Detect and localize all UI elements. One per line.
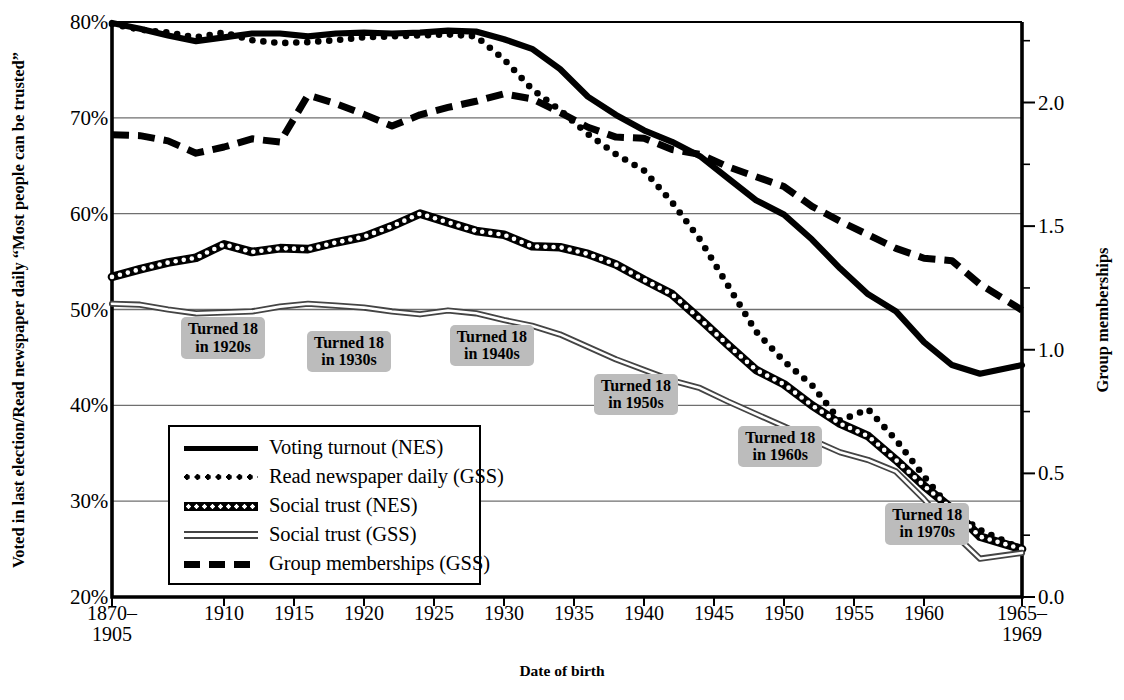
annotation-turned-18-in-1950s: Turned 18in 1950s	[594, 374, 678, 416]
series-dot-newspaper	[809, 383, 816, 390]
legend-item-read-newspaper-daily-gss[interactable]: Read newspaper daily (GSS)	[170, 462, 479, 491]
series-dot-social-trust-nes	[118, 272, 123, 277]
series-dot-social-trust-nes	[684, 305, 689, 310]
series-dot-social-trust-nes	[720, 338, 725, 343]
annotation-turned-18-in-1940s: Turned 18in 1940s	[450, 325, 534, 367]
series-dot-social-trust-nes	[833, 418, 838, 423]
series-dot-newspaper	[534, 90, 541, 97]
series-dot-newspaper	[902, 449, 909, 456]
series-dot-newspaper	[881, 424, 888, 431]
x-tick-1955: 1955	[834, 603, 874, 624]
series-dot-social-trust-nes	[433, 216, 438, 221]
series-dot-social-trust-nes	[559, 245, 564, 250]
series-dot-social-trust-nes	[665, 289, 670, 294]
series-dot-social-trust-nes	[765, 373, 770, 378]
series-dot-social-trust-nes	[813, 405, 818, 410]
series-dot-social-trust-nes	[259, 248, 264, 253]
series-dot-newspaper	[769, 345, 776, 352]
series-dot-newspaper	[228, 31, 235, 38]
legend-item-social-trust-gss[interactable]: Social trust (GSS)	[170, 520, 479, 549]
series-dot-social-trust-nes	[340, 239, 345, 244]
legend-item-group-memberships-gss[interactable]: Group memberships (GSS)	[170, 549, 479, 578]
series-dot-newspaper	[857, 409, 864, 416]
y-tick-left-70: 70%	[70, 105, 108, 130]
series-dot-social-trust-nes	[888, 453, 893, 458]
y-tick-left-40: 40%	[70, 393, 108, 418]
series-dot-newspaper	[801, 375, 808, 382]
x-tick-1950: 1950	[764, 603, 804, 624]
series-dot-social-trust-nes	[181, 258, 186, 263]
series-dot-social-trust-nes	[980, 535, 985, 540]
y-axis-right-title: Group memberships	[1088, 40, 1118, 600]
series-dot-social-trust-nes	[535, 244, 540, 249]
series-dot-newspaper	[736, 301, 743, 308]
series-dot-newspaper	[174, 31, 181, 38]
legend-item-social-trust-nes[interactable]: Social trust (NES)	[170, 491, 479, 520]
series-dot-newspaper	[622, 156, 629, 163]
series-dot-social-trust-nes	[141, 266, 146, 271]
series-dot-social-trust-nes	[316, 244, 321, 249]
legend-swatch-line	[184, 561, 258, 568]
series-dot-social-trust-nes	[591, 254, 596, 259]
plot-area	[0, 0, 1124, 700]
series-dot-social-trust-nes	[519, 240, 524, 245]
series-dot-newspaper	[392, 33, 399, 40]
series-dot-social-trust-nes	[758, 370, 763, 375]
series-dot-social-trust-nes	[678, 299, 683, 304]
series-dot-social-trust-nes	[480, 229, 485, 234]
series-dot-social-trust-nes	[650, 282, 655, 287]
series-dot-social-trust-nes	[826, 414, 831, 419]
series-dot-social-trust-nes	[739, 354, 744, 359]
series-dot-newspaper	[511, 67, 518, 74]
series-dot-social-trust-nes	[300, 247, 305, 252]
legend-swatch-double-thin-icon	[184, 528, 258, 542]
legend-label: Social trust (GSS)	[269, 523, 416, 546]
series-dot-newspaper	[196, 34, 203, 41]
series-dot-social-trust-nes	[488, 231, 493, 236]
series-dot-newspaper	[141, 27, 148, 34]
x-tick-1930: 1930	[484, 603, 524, 624]
series-dot-newspaper	[896, 440, 903, 447]
y-tick-left-60: 60%	[70, 201, 108, 226]
series-dot-social-trust-nes	[937, 496, 942, 501]
y-axis-left-title-line1: Voted in last election/Read newspaper da…	[9, 262, 28, 568]
series-dot-social-trust-nes	[512, 237, 517, 242]
series-dot-social-trust-nes	[456, 223, 461, 228]
series-dot-newspaper	[348, 35, 355, 42]
series-dot-social-trust-nes	[583, 251, 588, 256]
series-dot-social-trust-nes	[918, 481, 923, 486]
series-dot-newspaper	[655, 184, 662, 191]
series-dot-newspaper	[526, 83, 533, 90]
y-tick-right-0.5: 0.5	[1038, 461, 1064, 486]
series-dot-social-trust-nes	[441, 218, 446, 223]
series-dashed	[112, 94, 1022, 310]
legend-swatch-line	[184, 446, 258, 451]
series-dot-social-trust-nes	[551, 245, 556, 250]
series-dot-social-trust-nes	[732, 349, 737, 354]
series-dot-newspaper	[648, 176, 655, 183]
series-dot-social-trust-nes	[714, 332, 719, 337]
x-tick-1965–1969: 1965–1969	[997, 603, 1047, 644]
series-dot-newspaper	[631, 162, 638, 169]
y-tick-right-2.0: 2.0	[1038, 90, 1064, 115]
series-dot-social-trust-nes	[149, 264, 154, 269]
series-dot-newspaper	[641, 167, 648, 174]
series-dot-social-trust-nes	[973, 530, 978, 535]
series-dot-social-trust-nes	[567, 247, 572, 252]
series-dot-newspaper	[503, 59, 510, 66]
series-dot-social-trust-nes	[364, 234, 369, 239]
series-dot-newspaper	[702, 245, 709, 252]
series-dot-newspaper	[414, 32, 421, 39]
series-dot-social-trust-nes	[840, 422, 845, 427]
series-dot-social-trust-nes	[726, 343, 731, 348]
series-dot-social-trust-nes	[806, 400, 811, 405]
series-dot-social-trust-nes	[925, 486, 930, 491]
legend-swatch-dashed-icon	[184, 557, 258, 571]
series-dot-newspaper	[239, 34, 246, 41]
series-dot-newspaper	[478, 37, 485, 44]
series-dot-newspaper	[403, 33, 410, 40]
x-tick-1945: 1945	[694, 603, 734, 624]
legend-item-voting-turnout-nes[interactable]: Voting turnout (NES)	[170, 433, 479, 462]
series-dot-social-trust-nes	[227, 244, 232, 249]
series-dot-newspaper	[370, 34, 377, 41]
